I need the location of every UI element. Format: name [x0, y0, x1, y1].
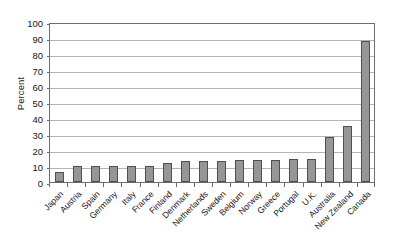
- bar-chart: Percent 0102030405060708090100 JapanAust…: [0, 0, 402, 250]
- x-label-cell: Belgium: [230, 188, 248, 250]
- bar[interactable]: [163, 163, 172, 182]
- x-axis-tick-marks: [49, 183, 375, 187]
- x-label-cell: Norway: [248, 188, 266, 250]
- x-label-cell: Sweden: [212, 188, 230, 250]
- y-tick-label: 70: [32, 66, 43, 77]
- x-label-cell: Greece: [266, 188, 284, 250]
- bar-slot: [338, 24, 356, 182]
- x-tick-mark: [230, 183, 248, 187]
- y-tick-label: 30: [32, 130, 43, 141]
- bar[interactable]: [217, 161, 226, 182]
- x-tick-mark: [321, 183, 339, 187]
- x-label-cell: Netherlands: [194, 188, 212, 250]
- x-label-cell: Germany: [103, 188, 121, 250]
- bar[interactable]: [91, 166, 100, 182]
- x-label-cell: New Zealand: [339, 188, 357, 250]
- bar[interactable]: [289, 159, 298, 182]
- x-tick-mark: [303, 183, 321, 187]
- y-tick-label: 80: [32, 50, 43, 61]
- x-tick-mark: [248, 183, 266, 187]
- y-tick-label: 90: [32, 34, 43, 45]
- bar-slot: [86, 24, 104, 182]
- bar-slot: [68, 24, 86, 182]
- y-tick-label: 20: [32, 146, 43, 157]
- x-tick-mark: [158, 183, 176, 187]
- x-tick-mark: [85, 183, 103, 187]
- bar-slot: [176, 24, 194, 182]
- bar[interactable]: [343, 126, 352, 182]
- bar[interactable]: [271, 160, 280, 182]
- bar-series: [50, 24, 374, 182]
- x-label-cell: Japan: [49, 188, 67, 250]
- bar-slot: [320, 24, 338, 182]
- bar[interactable]: [307, 159, 316, 182]
- x-tick-mark: [121, 183, 139, 187]
- x-tick-mark: [357, 183, 375, 187]
- bar[interactable]: [253, 160, 262, 182]
- bar[interactable]: [235, 160, 244, 182]
- y-tick-label: 0: [38, 178, 43, 189]
- bar[interactable]: [199, 161, 208, 182]
- bar-slot: [194, 24, 212, 182]
- x-tick-mark: [194, 183, 212, 187]
- x-tick-mark: [266, 183, 284, 187]
- x-tick-mark: [339, 183, 357, 187]
- x-label-cell: Canada: [357, 188, 375, 250]
- x-label-cell: Portugal: [284, 188, 302, 250]
- bar-slot: [356, 24, 374, 182]
- bar[interactable]: [325, 137, 334, 182]
- y-axis-tick-labels: 0102030405060708090100: [0, 0, 46, 250]
- x-label-cell: Austria: [67, 188, 85, 250]
- x-tick-mark: [284, 183, 302, 187]
- y-tick-label: 100: [27, 18, 43, 29]
- x-tick-mark: [49, 183, 67, 187]
- bar[interactable]: [181, 161, 190, 182]
- x-axis-category-labels: JapanAustriaSpainGermanyItalyFranceFinla…: [49, 188, 375, 250]
- x-tick-mark: [67, 183, 85, 187]
- x-label-cell: Italy: [121, 188, 139, 250]
- bar[interactable]: [145, 166, 154, 182]
- bar-slot: [140, 24, 158, 182]
- bar-slot: [158, 24, 176, 182]
- x-tick-mark: [103, 183, 121, 187]
- bar-slot: [122, 24, 140, 182]
- bar[interactable]: [361, 41, 370, 182]
- bar[interactable]: [109, 166, 118, 182]
- bar-slot: [284, 24, 302, 182]
- bar-slot: [50, 24, 68, 182]
- y-tick-label: 40: [32, 114, 43, 125]
- bar-slot: [212, 24, 230, 182]
- bar[interactable]: [127, 166, 136, 182]
- bar-slot: [302, 24, 320, 182]
- y-tick-label: 60: [32, 82, 43, 93]
- x-tick-mark: [212, 183, 230, 187]
- bar-slot: [104, 24, 122, 182]
- x-tick-mark: [176, 183, 194, 187]
- bar-slot: [248, 24, 266, 182]
- x-tick-mark: [140, 183, 158, 187]
- x-label-cell: France: [140, 188, 158, 250]
- bar[interactable]: [73, 166, 82, 182]
- bar[interactable]: [55, 172, 64, 182]
- y-tick-label: 50: [32, 98, 43, 109]
- plot-area: [49, 23, 375, 183]
- y-tick-label: 10: [32, 162, 43, 173]
- bar-slot: [266, 24, 284, 182]
- bar-slot: [230, 24, 248, 182]
